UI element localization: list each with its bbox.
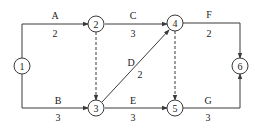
node-1: 1 [14,58,30,74]
node-6-label: 6 [238,61,243,72]
edge-b: B 3 [22,74,88,123]
node-2-label: 2 [94,19,99,30]
edge-a: A 2 [22,10,88,58]
node-6: 6 [232,58,248,74]
edge-c: C 3 [105,10,167,39]
edge-b-name: B [55,95,62,106]
edge-e: E 3 [105,95,167,123]
edge-b-duration: 3 [56,112,61,123]
edge-f: F 2 [183,9,240,58]
node-5: 5 [167,100,183,116]
edge-f-duration: 2 [207,28,212,39]
node-3-label: 3 [94,103,99,114]
node-3: 3 [88,100,104,116]
network-diagram: A 2 B 3 C 3 D 2 E 3 F 2 G 3 [0,0,255,132]
edge-f-name: F [206,9,212,20]
edge-d-name: D [127,57,134,68]
node-2: 2 [88,16,104,32]
edge-c-name: C [130,10,137,21]
edge-g: G 3 [183,74,240,123]
edge-g-name: G [204,95,211,106]
node-1-label: 1 [20,61,25,72]
edge-a-duration: 2 [53,28,58,39]
edge-d-duration: 2 [138,69,143,80]
node-4-label: 4 [173,18,178,29]
node-5-label: 5 [173,103,178,114]
edge-a-name: A [51,10,59,21]
edge-e-duration: 3 [131,112,136,123]
edge-g-duration: 3 [206,112,211,123]
edge-e-name: E [130,95,136,106]
node-4: 4 [167,15,183,31]
edge-c-duration: 3 [131,28,136,39]
edge-d: D 2 [102,30,169,102]
